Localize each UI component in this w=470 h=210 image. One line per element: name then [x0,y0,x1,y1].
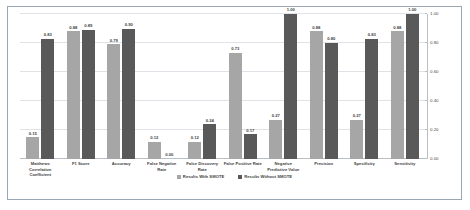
bar[interactable] [391,31,404,159]
bar[interactable] [107,44,120,159]
bar-column[interactable]: 0.88 [67,14,80,159]
bar-column[interactable]: 0.83 [365,14,378,159]
bar-value-label: 0.83 [368,33,376,37]
bar-value-label: 0.24 [206,119,214,123]
bar-column[interactable]: 0.00 [163,14,176,159]
bar-column[interactable]: 0.17 [244,14,257,159]
bar-column[interactable]: 0.88 [310,14,323,159]
bars-layer: 0.150.830.880.890.790.900.120.000.120.24… [20,14,425,159]
x-axis-label: Sensitivity [385,161,426,187]
x-axis-label: F1 Score [61,161,102,187]
bar-value-label: 0.00 [165,153,173,157]
bar-value-label: 0.88 [69,26,77,30]
bar-column[interactable]: 0.80 [325,14,338,159]
bar[interactable] [244,134,257,159]
bar-column[interactable]: 0.15 [26,14,39,159]
bar-group: 0.150.83 [20,14,61,159]
bar-column[interactable]: 1.00 [284,14,297,159]
bar[interactable] [350,120,363,159]
bar-column[interactable]: 0.27 [269,14,282,159]
bar-group: 0.881.00 [385,14,426,159]
bar-column[interactable]: 0.12 [148,14,161,159]
bar-group: 0.270.83 [344,14,385,159]
bar-value-label: 0.83 [44,33,52,37]
x-axis-label: Precision [304,161,345,187]
bar-group: 0.120.24 [182,14,223,159]
y-axis: 0.000.200.400.600.801.00 [427,14,457,159]
bar[interactable] [188,142,201,159]
bar-value-label: 0.27 [353,114,361,118]
bar-value-label: 0.90 [125,23,133,27]
legend-swatch-icon [177,175,181,179]
bar-value-label: 0.17 [246,129,254,133]
bar-column[interactable]: 0.90 [122,14,135,159]
bar-value-label: 1.00 [287,8,295,12]
legend-label: Results With SMOTE [183,175,224,179]
bar-group: 0.730.17 [223,14,264,159]
bar-value-label: 0.73 [231,47,239,51]
bar[interactable] [148,142,161,159]
bar-column[interactable]: 0.83 [41,14,54,159]
legend-item[interactable]: Results Without SMOTE [238,175,292,179]
y-tick-mark [425,71,427,72]
bar-value-label: 0.89 [84,24,92,28]
y-tick-label: 0.20 [430,128,439,132]
bar-value-label: 0.88 [312,26,320,30]
bar[interactable] [229,53,242,159]
bar[interactable] [82,30,95,159]
bar-column[interactable]: 0.73 [229,14,242,159]
bar-column[interactable]: 0.79 [107,14,120,159]
bar[interactable] [325,43,338,159]
legend-swatch-icon [238,175,242,179]
y-axis-line [427,14,428,159]
y-tick-label: 0.40 [430,99,439,103]
bar-column[interactable]: 0.89 [82,14,95,159]
bar[interactable] [269,120,282,159]
bar-group: 0.880.89 [61,14,102,159]
x-axis-label: Specificity [344,161,385,187]
bar[interactable] [122,29,135,160]
bar-column[interactable]: 0.24 [203,14,216,159]
x-axis-label: False Negative Rate [142,161,183,187]
bar[interactable] [203,124,216,159]
y-tick-label: 1.00 [430,12,439,16]
bar[interactable] [365,39,378,159]
bar-group: 0.271.00 [263,14,304,159]
bar[interactable] [310,31,323,159]
bar-group: 0.120.00 [142,14,183,159]
y-tick-mark [425,100,427,101]
bar-column[interactable]: 0.88 [391,14,404,159]
y-tick-label: 0.00 [430,157,439,161]
bar-group: 0.880.80 [304,14,345,159]
y-tick-label: 0.80 [430,41,439,45]
y-tick-label: 0.60 [430,70,439,74]
y-tick-mark [425,13,427,14]
bar-value-label: 0.79 [110,39,118,43]
plot-area: 0.150.830.880.890.790.900.120.000.120.24… [20,14,425,159]
chart-frame: 0.150.830.880.890.790.900.120.000.120.24… [7,6,462,200]
bar-column[interactable]: 0.12 [188,14,201,159]
y-tick-mark [425,129,427,130]
bar-column[interactable]: 1.00 [406,14,419,159]
bar[interactable] [406,14,419,159]
x-axis-label: Accuracy [101,161,142,187]
legend-label: Results Without SMOTE [244,175,292,179]
bar-value-label: 1.00 [408,8,416,12]
bar-value-label: 0.12 [150,136,158,140]
bar-value-label: 0.88 [393,26,401,30]
legend-item[interactable]: Results With SMOTE [177,175,224,179]
bar-value-label: 0.15 [29,132,37,136]
bar-group: 0.790.90 [101,14,142,159]
bar-value-label: 0.27 [272,114,280,118]
bar[interactable] [67,31,80,159]
bar[interactable] [284,14,297,159]
bar-column[interactable]: 0.27 [350,14,363,159]
y-tick-mark [425,42,427,43]
bar[interactable] [41,39,54,159]
bar-value-label: 0.80 [327,37,335,41]
x-axis-label: Matthews Correlation Coefficient [20,161,61,187]
bar-value-label: 0.12 [191,136,199,140]
chart-legend: Results With SMOTEResults Without SMOTE [8,175,461,179]
y-tick-mark [425,158,427,159]
bar[interactable] [26,137,39,159]
